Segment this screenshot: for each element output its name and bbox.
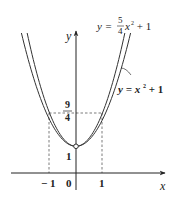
eq1-numerator: 5 xyxy=(118,15,123,25)
fraction-numerator: 9 xyxy=(65,99,70,110)
origin-label: 0 xyxy=(66,177,72,189)
x-axis-label: x xyxy=(159,179,166,193)
tick-y-nine-fourths: 9 4 xyxy=(63,99,72,123)
y-axis-label: y xyxy=(65,29,72,43)
eq2-tail: + 1 xyxy=(146,83,163,95)
eq1-denominator: 4 xyxy=(118,26,123,36)
fraction-denominator: 4 xyxy=(65,112,70,123)
open-vertex-point xyxy=(74,144,79,149)
tick-x-neg-one: − 1 xyxy=(41,177,56,189)
eq2-prefix: y = x xyxy=(116,83,141,95)
eq1-variable: x xyxy=(124,20,130,32)
parabola-diagram: y x 0 − 1 1 1 9 4 y = 5 4 x 2 + 1 y = x … xyxy=(0,0,175,206)
equation-label-x-squared: y = x 2 + 1 xyxy=(116,83,163,95)
label-leader-line xyxy=(121,68,131,75)
eq1-tail: + 1 xyxy=(134,20,151,32)
tick-x-one: 1 xyxy=(99,177,105,189)
tick-y-one: 1 xyxy=(66,150,72,162)
equation-label-five-fourths: y = 5 4 x 2 + 1 xyxy=(96,15,151,36)
eq1-prefix: y = xyxy=(96,20,115,32)
